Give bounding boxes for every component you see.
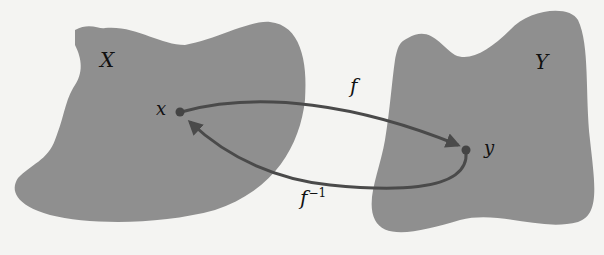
point-x-label: x [156, 100, 166, 118]
function-inverse-diagram: X Y x y f f−1 [0, 0, 604, 255]
diagram-graphics [0, 0, 604, 255]
arrow-f-inverse-label-base: f [300, 186, 307, 210]
arrow-f-inverse-label: f−1 [300, 188, 326, 208]
point-y-label: y [484, 139, 494, 157]
arrow-f-label: f [350, 76, 357, 96]
point-x [176, 108, 185, 117]
arrow-f-inverse-label-sup: −1 [308, 186, 326, 200]
set-y-region [372, 11, 595, 232]
set-x-region [15, 22, 306, 222]
set-y-label: Y [535, 52, 548, 72]
set-x-label: X [100, 50, 114, 70]
point-y [462, 146, 471, 155]
